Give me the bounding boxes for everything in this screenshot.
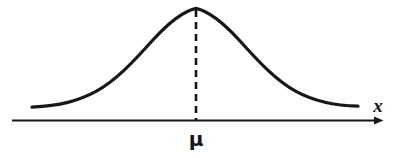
normal-distribution-figure: x μ	[0, 0, 407, 158]
x-axis-label: x	[372, 95, 383, 116]
mean-label: μ	[189, 127, 204, 151]
figure-canvas: x μ	[0, 0, 407, 158]
